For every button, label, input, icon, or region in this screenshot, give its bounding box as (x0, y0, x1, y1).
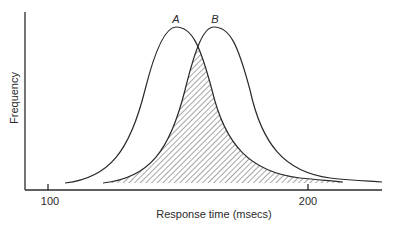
x-tick-label-200: 200 (299, 195, 317, 207)
x-tick-label-100: 100 (41, 195, 59, 207)
x-axis-label: Response time (msecs) (156, 208, 272, 220)
overlap-hatched-region (103, 27, 382, 183)
curve-a-label: A (171, 13, 179, 25)
y-axis-label: Frequency (8, 72, 20, 124)
curve-b-label: B (211, 13, 218, 25)
response-time-chart: 100 200 Response time (msecs) Frequency … (0, 0, 395, 225)
